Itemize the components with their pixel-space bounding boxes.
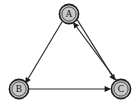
graph-node-c[interactable]: C [111, 79, 130, 98]
edge-c-to-a [73, 22, 116, 80]
graph-canvas: A B C [0, 0, 136, 112]
edge-a-to-b-line [27, 22, 63, 81]
graph-node-b[interactable]: B [9, 79, 28, 98]
graph-node-a[interactable]: A [59, 4, 78, 23]
graph-node-a-label: A [66, 9, 73, 19]
edge-b-to-c [29, 86, 111, 92]
graph-node-b-label: B [16, 84, 22, 94]
edge-c-to-a-line [75, 25, 117, 81]
directed-graph-figure: A B C [0, 0, 136, 112]
graph-node-c-label: C [118, 84, 124, 94]
edge-b-to-c-arrowhead [105, 86, 111, 92]
edge-a-to-b [25, 22, 62, 84]
